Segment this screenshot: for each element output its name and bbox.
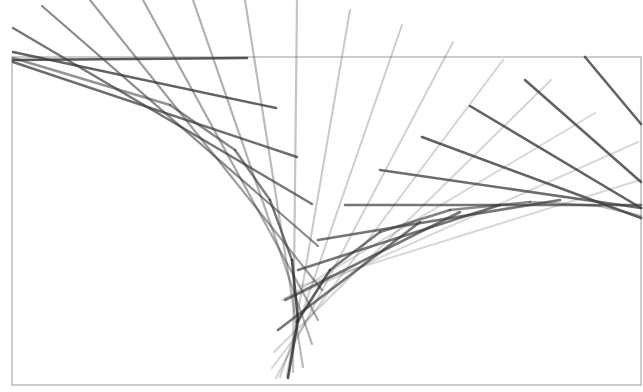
left-envelope-line [13,62,297,157]
left-envelope-line [13,28,312,204]
left-envelope-line [13,52,276,108]
left-envelope-line [42,6,318,246]
frame-rectangle [12,57,641,385]
line-envelope-drawing [0,0,643,392]
right-envelope-line [470,106,641,208]
left-envelope-line [143,0,318,320]
right-envelope-line [380,170,641,208]
right-envelope-line [285,212,460,300]
left-envelope-line [300,180,640,286]
